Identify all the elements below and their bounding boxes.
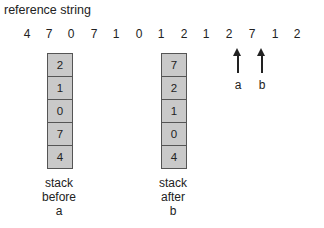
caption-line: stack	[29, 176, 89, 190]
ref-item: 7	[245, 27, 259, 41]
arrow-up-icon	[256, 48, 268, 74]
caption-line: a	[29, 204, 89, 218]
stack-cell: 1	[162, 100, 186, 123]
stack-before-caption: stack before a	[29, 176, 89, 218]
stack-cell: 7	[48, 123, 72, 146]
ref-item: 2	[222, 27, 236, 41]
ref-item: 7	[87, 27, 101, 41]
ref-item: 0	[132, 27, 146, 41]
stack-before-a: 2 1 0 7 4	[47, 53, 73, 169]
caption-line: after	[143, 190, 203, 204]
marker-label-a: a	[232, 78, 244, 92]
diagram-title: reference string	[4, 3, 91, 17]
ref-item: 0	[64, 27, 78, 41]
reference-string-row: 4 7 0 7 1 0 1 2 1 2 7 1 2	[0, 27, 324, 43]
stack-cell: 0	[48, 100, 72, 123]
stack-cell: 2	[48, 54, 72, 77]
caption-line: b	[143, 204, 203, 218]
stack-cell: 4	[48, 146, 72, 168]
stack-cell: 7	[162, 54, 186, 77]
ref-item: 2	[290, 27, 304, 41]
ref-item: 4	[20, 27, 34, 41]
caption-line: before	[29, 190, 89, 204]
stack-after-b: 7 2 1 0 4	[161, 53, 187, 169]
stack-cell: 0	[162, 123, 186, 146]
ref-item: 2	[177, 27, 191, 41]
ref-item: 1	[154, 27, 168, 41]
stack-cell: 4	[162, 146, 186, 168]
arrow-up-icon	[232, 48, 244, 74]
ref-item: 1	[199, 27, 213, 41]
ref-item: 1	[268, 27, 282, 41]
stack-cell: 2	[162, 77, 186, 100]
ref-item: 1	[109, 27, 123, 41]
ref-item: 7	[42, 27, 56, 41]
stack-after-caption: stack after b	[143, 176, 203, 218]
stack-cell: 1	[48, 77, 72, 100]
caption-line: stack	[143, 176, 203, 190]
marker-label-b: b	[256, 78, 268, 92]
